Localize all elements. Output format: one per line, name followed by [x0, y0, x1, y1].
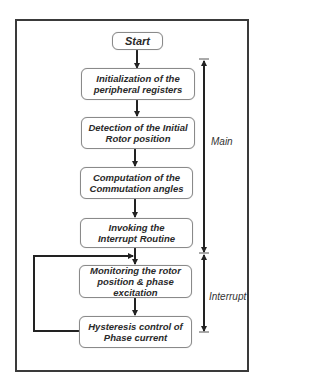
node-hysteresis-line2: Phase current: [104, 332, 167, 343]
node-monitor-line2: position & phase: [97, 276, 174, 287]
node-monitor: Monitoring the rotor position & phase ex…: [79, 265, 192, 298]
node-compute-line2: Commutation angles: [90, 183, 184, 194]
node-init: Initialization of the peripheral registe…: [81, 68, 195, 100]
node-compute: Computation of the Commutation angles: [80, 167, 193, 199]
node-invoke-line1: Invoking the: [109, 222, 165, 233]
node-start: Start: [112, 32, 163, 50]
node-start-text: Start: [125, 36, 150, 47]
node-detect: Detection of the Initial Rotor position: [81, 117, 195, 149]
node-detect-line2: Rotor position: [106, 133, 171, 144]
node-invoke: Invoking the Interrupt Routine: [80, 218, 193, 248]
node-hysteresis-line1: Hysteresis control of: [88, 321, 183, 332]
node-detect-line1: Detection of the Initial: [88, 122, 187, 133]
node-init-line2: peripheral registers: [94, 84, 183, 95]
label-main: Main: [211, 136, 233, 147]
node-compute-line1: Computation of the: [93, 172, 180, 183]
node-monitor-line3: excitation: [113, 287, 157, 298]
node-invoke-line2: Interrupt Routine: [98, 233, 175, 244]
node-monitor-line1: Monitoring the rotor: [90, 265, 181, 276]
node-init-line1: Initialization of the: [96, 73, 179, 84]
label-interrupt: Interrupt: [209, 291, 246, 302]
node-hysteresis: Hysteresis control of Phase current: [79, 316, 192, 348]
